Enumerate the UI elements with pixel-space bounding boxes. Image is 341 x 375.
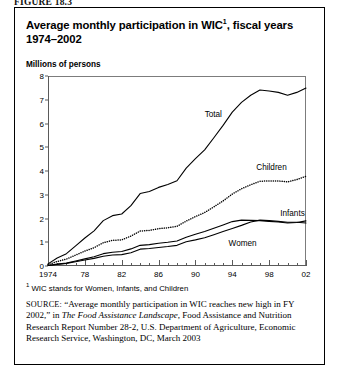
figure-title-tail: , fiscal years xyxy=(227,19,293,31)
x-tick-label: 78 xyxy=(80,270,89,279)
footnote-text: WIC stands for Women, Infants, and Child… xyxy=(32,284,189,293)
figure-title-main: Average monthly participation in WIC xyxy=(26,19,223,31)
y-tick-label: 4 xyxy=(40,167,44,176)
y-tick-label: 5 xyxy=(40,143,44,152)
x-tick-label: 90 xyxy=(191,270,200,279)
figure-number-label: FIGURE 18.3 xyxy=(14,0,72,7)
series-label-children: Children xyxy=(256,163,287,172)
line-chart: 012345678 197478828690949802 TotalChildr… xyxy=(26,72,316,272)
y-tick-label: 8 xyxy=(40,72,44,81)
y-axis-caption: Millions of persons xyxy=(26,60,101,69)
figure-box: Average monthly participation in WIC1, f… xyxy=(14,7,325,365)
plot-area: 012345678 197478828690949802 TotalChildr… xyxy=(48,76,306,266)
y-tick-label: 3 xyxy=(40,190,44,199)
figure-title-years: 1974–2002 xyxy=(26,33,82,45)
series-line-total xyxy=(48,88,306,264)
source-italic-title: The Food Assistance Landscape xyxy=(62,310,178,320)
x-tick-label: 94 xyxy=(228,270,237,279)
figure-source: SOURCE: “Average monthly participation i… xyxy=(26,299,314,345)
y-tick-label: 7 xyxy=(40,95,44,104)
x-tick-label: 86 xyxy=(154,270,163,279)
series-line-infants xyxy=(48,220,306,265)
series-label-total: Total xyxy=(205,110,222,119)
y-tick-label: 6 xyxy=(40,119,44,128)
x-tick-label: 82 xyxy=(117,270,126,279)
x-tick-label: 98 xyxy=(265,270,274,279)
x-tick-label: 02 xyxy=(302,270,311,279)
figure-footnote: 1 WIC stands for Women, Infants, and Chi… xyxy=(26,284,312,294)
series-label-women: Women xyxy=(229,239,257,248)
source-prefix: SOURCE: xyxy=(26,300,62,309)
y-tick-label: 2 xyxy=(40,214,44,223)
x-tick-major xyxy=(306,260,307,266)
figure-page: FIGURE 18.3 Average monthly participatio… xyxy=(0,0,341,375)
footnote-marker: 1 xyxy=(26,282,29,288)
x-tick-label: 1974 xyxy=(39,270,57,279)
figure-title: Average monthly participation in WIC1, f… xyxy=(26,19,306,46)
series-label-infants: Infants xyxy=(280,209,305,218)
y-tick-label: 1 xyxy=(40,238,44,247)
